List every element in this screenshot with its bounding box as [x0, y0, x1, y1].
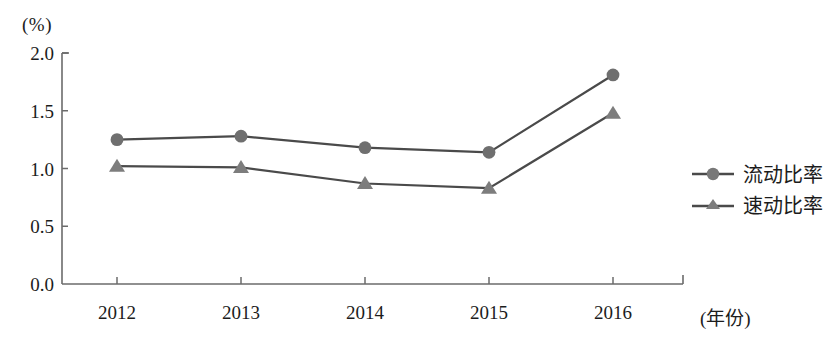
legend-label: 速动比率 [743, 190, 823, 219]
legend-item-current-ratio[interactable]: 流动比率 [690, 158, 823, 189]
triangle-marker-icon [690, 195, 736, 215]
data-point-triangle-marker-icon [605, 106, 621, 119]
legend-item-quick-ratio[interactable]: 速动比率 [690, 189, 823, 220]
line-chart: (%) 0.00.51.01.52.0 20122013201420152016… [0, 0, 823, 359]
data-point-circle-marker-icon [359, 141, 372, 154]
data-point-circle-marker-icon [235, 130, 248, 143]
data-point-circle-marker-icon [483, 146, 496, 159]
legend: 流动比率 速动比率 [690, 158, 823, 220]
legend-label: 流动比率 [743, 159, 823, 188]
data-point-circle-marker-icon [111, 133, 124, 146]
circle-marker-icon [690, 164, 736, 184]
data-point-circle-marker-icon [607, 69, 620, 82]
series-line-current-ratio [117, 75, 613, 152]
